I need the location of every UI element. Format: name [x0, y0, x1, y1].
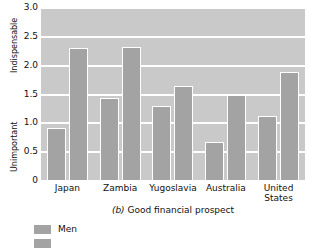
- y-axis-tick-label: 1.5: [24, 89, 38, 98]
- legend-item: [34, 238, 214, 249]
- bar-group: [258, 7, 299, 180]
- chart-legend: Men: [34, 224, 214, 252]
- plot-area: [41, 7, 305, 180]
- bar-men-japan: [47, 128, 66, 180]
- bar-group: [100, 7, 141, 180]
- bar-group: [205, 7, 246, 180]
- bar-groups: [41, 7, 305, 180]
- chart-caption: (b) Good financial prospect: [41, 205, 305, 215]
- legend-swatch: [34, 225, 51, 234]
- legend-label: Men: [58, 225, 77, 234]
- bar-men-zambia: [100, 98, 119, 180]
- y-axis-tick-label: 0: [32, 176, 38, 185]
- caption-text: Good financial prospect: [125, 205, 234, 215]
- bar-women-yugoslavia: [174, 86, 193, 180]
- bar-men-australia: [205, 142, 224, 180]
- bar-women-australia: [227, 95, 246, 180]
- bar-group: [152, 7, 193, 180]
- bar-women-zambia: [122, 47, 141, 180]
- bar-men-yugoslavia: [152, 106, 171, 180]
- bar-group: [47, 7, 88, 180]
- y-axis-tick-label: 1.0: [24, 118, 38, 127]
- legend-swatch: [34, 239, 51, 248]
- bar-men-united-states: [258, 116, 277, 180]
- y-axis-tick-label: 0.5: [24, 147, 38, 156]
- y-axis-tick-labels: 00.51.01.52.02.53.0: [14, 0, 40, 190]
- y-axis-tick-label: 2.5: [24, 31, 38, 40]
- y-axis-tick-label: 3.0: [24, 3, 38, 12]
- y-axis-tick-label: 2.0: [24, 60, 38, 69]
- bar-women-japan: [69, 48, 88, 180]
- bar-women-united-states: [280, 72, 299, 180]
- caption-prefix: (b): [112, 205, 125, 215]
- legend-item: Men: [34, 224, 214, 235]
